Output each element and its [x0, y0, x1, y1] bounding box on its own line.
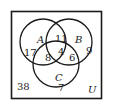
- region-a-b-c: 4: [58, 46, 64, 57]
- venn-diagram: A B C U 17 9 7 11 8 6 4 38: [0, 0, 113, 107]
- set-label-a: A: [36, 34, 44, 45]
- region-outside: 38: [17, 81, 30, 92]
- region-c-only: 7: [58, 82, 64, 93]
- region-a-and-b: 11: [55, 33, 68, 44]
- universe-label: U: [88, 84, 97, 95]
- set-label-b: B: [74, 34, 82, 45]
- region-b-and-c: 6: [69, 52, 75, 63]
- region-b-only: 9: [86, 45, 92, 56]
- region-a-only: 17: [24, 47, 37, 58]
- region-a-and-c: 8: [45, 52, 51, 63]
